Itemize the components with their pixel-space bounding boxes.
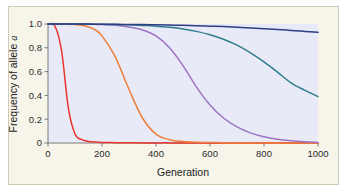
y-axis-ticks (45, 24, 49, 143)
x-axis-tick-labels: 02004006008001000 (45, 148, 328, 159)
y-axis-title-main: Frequency of allele (7, 41, 19, 133)
y-axis-tick-labels: 00.20.40.60.81.0 (29, 18, 42, 148)
x-tick-label: 600 (202, 148, 218, 159)
plot-area-background (48, 24, 318, 143)
y-tick-label: 0.2 (29, 114, 42, 125)
y-tick-label: 0.6 (29, 66, 42, 77)
y-tick-label: 0.8 (29, 42, 42, 53)
y-axis-title: Frequency of allele a (7, 36, 19, 133)
y-tick-label: 1.0 (29, 18, 42, 29)
svg-text:Generation: Generation (157, 166, 209, 178)
y-tick-label: 0 (37, 137, 42, 148)
y-axis-title-allele: a (8, 36, 19, 41)
x-axis-title: Generation (157, 166, 209, 178)
x-tick-label: 0 (45, 148, 50, 159)
x-tick-label: 200 (94, 148, 110, 159)
svg-text:Frequency of allele a: Frequency of allele a (7, 36, 19, 133)
x-tick-label: 800 (256, 148, 272, 159)
x-tick-label: 400 (148, 148, 164, 159)
allele-frequency-chart: 00.20.40.60.81.0 02004006008001000 Gener… (0, 0, 347, 192)
x-tick-label: 1000 (307, 148, 328, 159)
y-tick-label: 0.4 (29, 90, 42, 101)
figure-container: 00.20.40.60.81.0 02004006008001000 Gener… (0, 0, 347, 192)
